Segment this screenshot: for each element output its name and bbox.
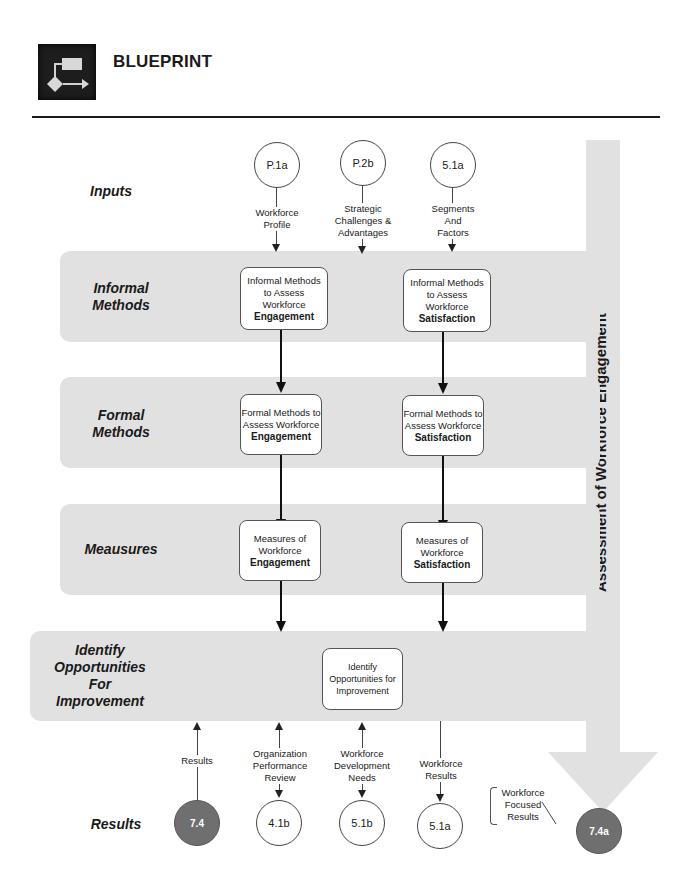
output-node-4-1b[interactable]: 4.1b — [256, 800, 302, 846]
box-emphasis: Satisfaction — [415, 432, 472, 444]
box-line: Formal Methods to — [403, 408, 482, 420]
row-label-results: Results — [76, 816, 156, 833]
box-line: Measures of — [416, 535, 468, 547]
callout-bracket — [490, 787, 497, 825]
output-node-7-4[interactable]: 7.4 — [174, 800, 220, 846]
label-line: Workforce — [241, 207, 313, 219]
output-node-5-1b[interactable]: 5.1b — [339, 800, 385, 846]
label-line: Review — [244, 772, 316, 784]
box-emphasis: Engagement — [251, 431, 311, 443]
box-emphasis: Satisfaction — [414, 559, 471, 571]
box-line: Informal Methods — [247, 275, 320, 287]
box-measures-satisfaction[interactable]: Measures of Workforce Satisfaction — [401, 522, 483, 583]
box-informal-satisfaction[interactable]: Informal Methods to Assess Workforce Sat… — [403, 269, 491, 332]
box-line: Workforce — [420, 547, 463, 559]
box-identify-opportunities[interactable]: Identify Opportunities for Improvement — [322, 648, 403, 710]
label-line: Organization — [244, 748, 316, 760]
box-line: Improvement — [336, 685, 389, 697]
input-node-p1a[interactable]: P.1a — [254, 142, 300, 188]
row-label-measures: Meausures — [76, 541, 166, 558]
row-label-informal-methods: Informal Methods — [86, 280, 156, 314]
label-line: Needs — [326, 772, 398, 784]
arrowhead-up-icon — [193, 722, 201, 730]
flow-line — [280, 455, 282, 521]
final-node-7-4a[interactable]: 7.4a — [576, 808, 622, 854]
label-line: Strategic — [322, 203, 404, 215]
row-label-line: Opportunities — [40, 659, 160, 676]
output-label-workforce-results: Workforce Results — [410, 758, 472, 782]
input-label-segments-factors: Segments And Factors — [420, 203, 486, 239]
row-label-formal-methods: Formal Methods — [86, 407, 156, 441]
input-node-5-1a[interactable]: 5.1a — [430, 142, 476, 188]
box-measures-engagement[interactable]: Measures of Workforce Engagement — [239, 520, 321, 581]
arrowhead-down-icon — [358, 790, 366, 798]
arrowhead-down-icon — [438, 383, 448, 394]
arrowhead-down-icon — [438, 621, 448, 632]
row-label-inputs: Inputs — [76, 183, 146, 200]
box-informal-engagement[interactable]: Informal Methods to Assess Workforce Eng… — [240, 267, 328, 330]
box-emphasis: Satisfaction — [419, 313, 476, 325]
box-line: Workforce — [262, 299, 305, 311]
box-line: Assess Workforce — [405, 420, 481, 432]
page-title: BLUEPRINT — [113, 52, 212, 72]
row-label-line: Improvement — [40, 693, 160, 710]
flow-line — [442, 456, 444, 522]
input-label-strategic-challenges: Strategic Challenges & Advantages — [322, 203, 404, 239]
callout-leader-line — [540, 800, 580, 830]
box-line: to Assess — [427, 289, 468, 301]
row-label-line: Methods — [86, 424, 156, 441]
arrowhead-down-icon — [436, 794, 444, 802]
label-line: Performance — [244, 760, 316, 772]
arrowhead-up-icon — [275, 722, 283, 730]
box-emphasis: Engagement — [254, 311, 314, 323]
arrowhead-down-icon — [448, 244, 456, 252]
flow-line — [280, 330, 282, 383]
label-line: Workforce — [498, 787, 548, 799]
row-label-line: Identify — [40, 642, 160, 659]
label-line: And — [420, 215, 486, 227]
box-line: Identify — [348, 661, 377, 673]
flow-line — [442, 332, 444, 384]
arrowhead-up-icon — [358, 722, 366, 730]
row-label-identify-opportunities: Identify Opportunities For Improvement — [40, 642, 160, 710]
box-line: Workforce — [258, 545, 301, 557]
box-line: to Assess — [264, 287, 305, 299]
row-label-line: Formal — [86, 407, 156, 424]
label-line: Development — [326, 760, 398, 772]
arrowhead-down-icon — [272, 244, 280, 252]
box-line: Formal Methods to — [241, 407, 320, 419]
label-line: Factors — [420, 227, 486, 239]
arrowhead-down-icon — [276, 382, 286, 393]
label-line: Advantages — [322, 227, 404, 239]
box-emphasis: Engagement — [250, 557, 310, 569]
label-line: Workforce — [326, 748, 398, 760]
label-line: Workforce — [410, 758, 472, 770]
row-label-line: Methods — [86, 297, 156, 314]
flow-line — [280, 581, 282, 622]
input-label-workforce-profile: Workforce Profile — [241, 207, 313, 231]
row-label-line: For — [40, 676, 160, 693]
box-line: Informal Methods — [410, 277, 483, 289]
label-line: Results — [410, 770, 472, 782]
blueprint-logo-icon — [38, 44, 96, 100]
flow-line — [442, 583, 444, 622]
box-line: Measures of — [254, 533, 306, 545]
label-line: Profile — [241, 219, 313, 231]
arrowhead-down-icon — [275, 790, 283, 798]
box-line: Opportunities for — [329, 673, 396, 685]
box-formal-engagement[interactable]: Formal Methods to Assess Workforce Engag… — [240, 394, 322, 455]
arrowhead-down-icon — [276, 621, 286, 632]
box-line: Assess Workforce — [243, 419, 319, 431]
header-divider — [32, 116, 660, 118]
arrowhead-down-icon — [358, 246, 366, 254]
box-formal-satisfaction[interactable]: Formal Methods to Assess Workforce Satis… — [402, 395, 484, 456]
row-label-line: Informal — [86, 280, 156, 297]
box-line: Workforce — [425, 301, 468, 313]
input-node-p2b[interactable]: P.2b — [340, 140, 386, 186]
output-label-results: Results — [172, 755, 222, 767]
output-label-workforce-development-needs: Workforce Development Needs — [326, 748, 398, 784]
label-line: Segments — [420, 203, 486, 215]
output-label-organization-performance-review: Organization Performance Review — [244, 748, 316, 784]
output-node-5-1a[interactable]: 5.1a — [417, 803, 463, 849]
label-line: Challenges & — [322, 215, 404, 227]
